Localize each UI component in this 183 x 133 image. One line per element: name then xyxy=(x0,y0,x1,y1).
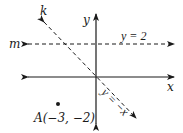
line-k-label: k xyxy=(40,5,47,17)
y-axis-label: y xyxy=(83,14,90,26)
point-a-dot xyxy=(56,102,60,106)
x-axis-label: x xyxy=(167,81,174,93)
coordinate-diagram: k y m y = 2 x y = −x A(−3, −2) xyxy=(0,0,183,133)
line-m-label: m xyxy=(9,38,20,50)
line-m-equation: y = 2 xyxy=(121,30,146,42)
point-a-label: A(−3, −2) xyxy=(34,112,95,124)
